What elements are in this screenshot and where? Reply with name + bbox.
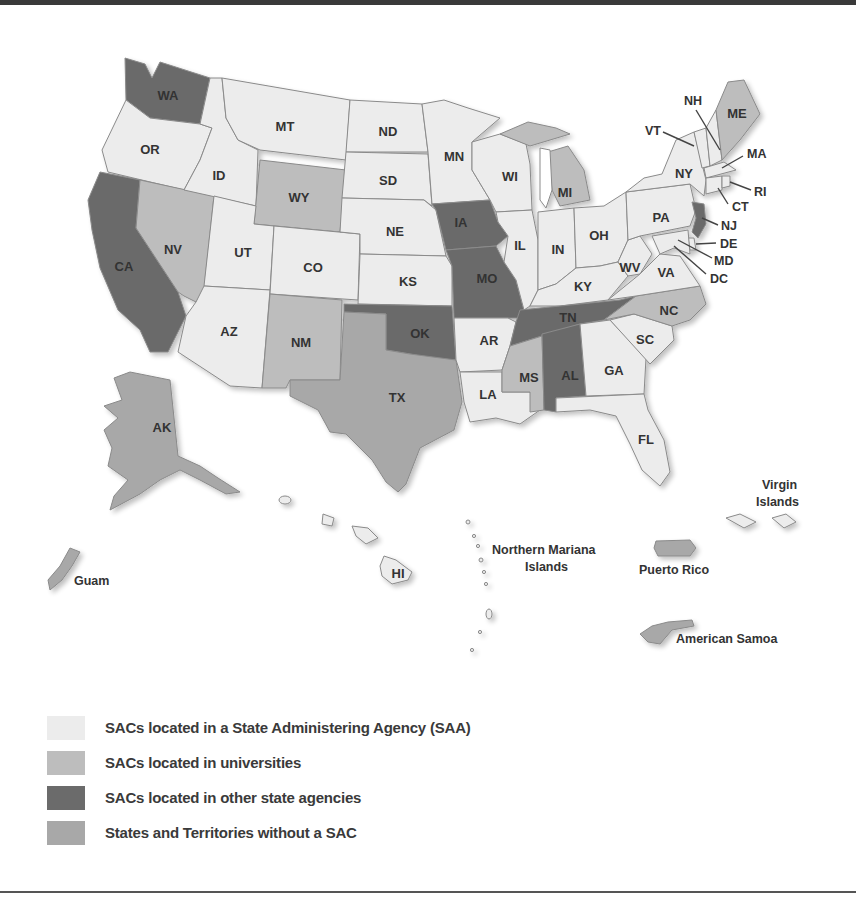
territory-virgin-islands[interactable]: [726, 514, 796, 528]
hawaii-island-maui: [352, 526, 378, 544]
label-MD: MD: [714, 254, 733, 268]
hawaii-island-oahu: [322, 514, 334, 526]
territory-puerto-rico[interactable]: [654, 540, 696, 556]
label-OK: OK: [410, 326, 430, 341]
state-MD[interactable]: [652, 230, 690, 254]
us-sac-map: WA OR CA NV ID MT WY UT AZ CO NM ND SD N…: [0, 0, 856, 700]
label-RI: RI: [754, 185, 767, 199]
label-MI: MI: [558, 185, 572, 200]
label-FL: FL: [638, 432, 654, 447]
legend-item-saa: SACs located in a State Administering Ag…: [47, 710, 471, 745]
label-WV: WV: [620, 260, 641, 275]
state-RI[interactable]: [722, 176, 730, 188]
label-WY: WY: [289, 190, 310, 205]
label-UT: UT: [234, 245, 251, 260]
state-AK[interactable]: [104, 372, 240, 510]
label-northern-mariana-2: Islands: [525, 560, 568, 574]
label-VT: VT: [645, 124, 661, 138]
label-NY: NY: [675, 166, 693, 181]
label-OR: OR: [140, 142, 160, 157]
label-AL: AL: [561, 368, 578, 383]
label-virgin-1: Virgin: [762, 478, 797, 492]
label-CO: CO: [303, 260, 323, 275]
state-NJ[interactable]: [692, 202, 706, 238]
label-northern-mariana-1: Northern Mariana: [492, 543, 597, 557]
label-IL: IL: [514, 238, 526, 253]
label-MS: MS: [519, 370, 539, 385]
bottom-rule: [0, 891, 856, 893]
label-KY: KY: [574, 279, 592, 294]
label-MO: MO: [477, 271, 498, 286]
label-NJ: NJ: [721, 219, 737, 233]
legend-swatch-other-agencies: [47, 786, 85, 810]
label-virgin-2: Islands: [756, 495, 799, 509]
territory-northern-mariana-islands[interactable]: [466, 520, 492, 652]
label-ME: ME: [727, 106, 747, 121]
label-IN: IN: [552, 242, 565, 257]
label-MA: MA: [747, 147, 766, 161]
hawaii-island-kauai: [279, 496, 291, 504]
label-DE: DE: [720, 237, 737, 251]
label-MN: MN: [444, 149, 464, 164]
label-american-samoa: American Samoa: [676, 632, 778, 646]
label-OH: OH: [589, 228, 609, 243]
legend-swatch-no-sac: [47, 821, 85, 845]
legend-label-saa: SACs located in a State Administering Ag…: [105, 719, 471, 736]
label-NH: NH: [684, 94, 702, 108]
legend-swatch-universities: [47, 751, 85, 775]
legend-item-no-sac: States and Territories without a SAC: [47, 815, 471, 850]
label-WI: WI: [502, 169, 518, 184]
label-ND: ND: [379, 124, 398, 139]
label-TX: TX: [389, 390, 406, 405]
label-WA: WA: [158, 88, 180, 103]
label-SC: SC: [636, 332, 655, 347]
label-KS: KS: [399, 274, 417, 289]
label-CA: CA: [115, 259, 134, 274]
label-VA: VA: [657, 265, 675, 280]
label-NV: NV: [164, 242, 182, 257]
lake-michigan: [540, 148, 552, 208]
label-AR: AR: [480, 333, 499, 348]
label-guam: Guam: [74, 574, 109, 588]
map-legend: SACs located in a State Administering Ag…: [47, 710, 471, 850]
label-NE: NE: [386, 224, 404, 239]
label-CT: CT: [732, 200, 749, 214]
label-SD: SD: [379, 173, 397, 188]
legend-item-universities: SACs located in universities: [47, 745, 471, 780]
label-IA: IA: [455, 215, 469, 230]
label-GA: GA: [604, 363, 624, 378]
label-DC: DC: [710, 272, 728, 286]
label-AZ: AZ: [220, 324, 237, 339]
label-puerto-rico: Puerto Rico: [639, 563, 710, 577]
legend-label-universities: SACs located in universities: [105, 754, 301, 771]
legend-label-no-sac: States and Territories without a SAC: [105, 824, 357, 841]
legend-label-other-agencies: SACs located in other state agencies: [105, 789, 361, 806]
label-HI: HI: [392, 566, 405, 581]
label-MT: MT: [276, 119, 295, 134]
label-NM: NM: [291, 335, 311, 350]
label-NC: NC: [660, 303, 679, 318]
label-ID: ID: [213, 168, 226, 183]
legend-swatch-saa: [47, 716, 85, 740]
label-TN: TN: [559, 310, 576, 325]
label-AK: AK: [153, 420, 172, 435]
label-LA: LA: [479, 387, 497, 402]
state-NY[interactable]: [626, 132, 706, 196]
label-PA: PA: [652, 210, 670, 225]
legend-item-other-agencies: SACs located in other state agencies: [47, 780, 471, 815]
